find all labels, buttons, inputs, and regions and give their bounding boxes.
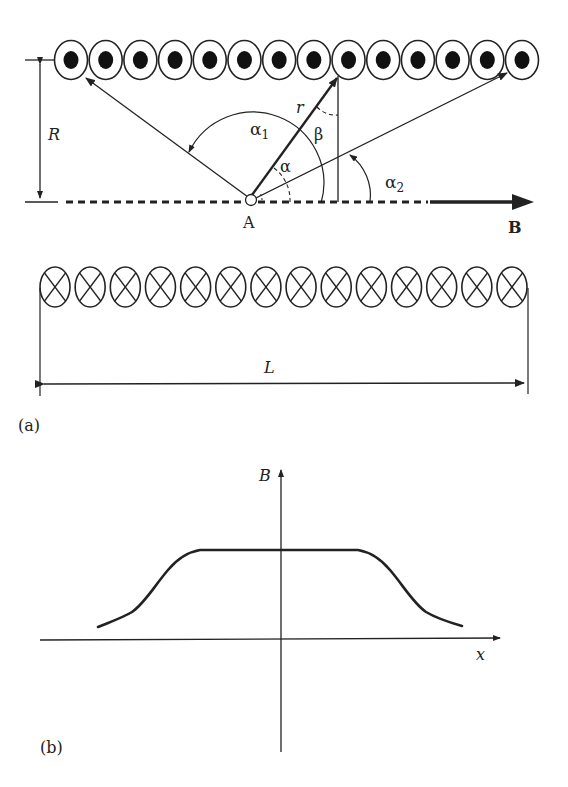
- dot-conductor: [297, 41, 330, 80]
- dot-conductor: [332, 41, 365, 80]
- dot-conductor: [506, 41, 539, 80]
- label-alpha1: α1: [250, 119, 269, 142]
- cross-conductor: [181, 267, 211, 307]
- label-L: L: [263, 358, 275, 377]
- dot-conductor: [89, 41, 122, 80]
- panel-a-label: (a): [18, 416, 40, 435]
- cross-conductor: [145, 267, 175, 307]
- x-axis-label: x: [476, 645, 485, 664]
- y-axis-label: B: [258, 466, 271, 485]
- cross-conductor: [75, 267, 105, 307]
- cross-conductor: [286, 267, 316, 307]
- dot-conductor: [55, 41, 88, 80]
- vector-to-right-end: [254, 73, 507, 199]
- label-B-field: B: [508, 218, 522, 237]
- cross-conductor: [392, 267, 422, 307]
- label-beta: β: [314, 125, 323, 144]
- vector-to-left-end: [86, 78, 248, 197]
- dot-conductor: [263, 41, 296, 80]
- label-r: r: [296, 98, 305, 117]
- panel-b: B x (b): [40, 466, 500, 757]
- point-A: [246, 195, 257, 206]
- cross-conductor: [427, 267, 457, 307]
- cross-conductor: [321, 267, 351, 307]
- dot-conductor: [436, 41, 469, 80]
- field-profile-curve: [98, 550, 462, 627]
- cross-conductor: [251, 267, 281, 307]
- top-conductor-row: [55, 41, 539, 80]
- cross-conductor: [497, 267, 527, 307]
- panel-b-label: (b): [40, 738, 63, 757]
- cross-conductor: [110, 267, 140, 307]
- alpha2-arc: [350, 155, 370, 202]
- panel-a: R B α1 α β r α2 A L (a): [18, 41, 539, 436]
- dot-conductor: [471, 41, 504, 80]
- x-axis: [40, 638, 500, 640]
- label-alpha2: α2: [385, 172, 404, 195]
- dot-conductor: [228, 41, 261, 80]
- dot-conductor: [193, 41, 226, 80]
- cross-conductor: [40, 267, 70, 307]
- b-field-arrow-head: [512, 194, 534, 210]
- cross-conductor: [216, 267, 246, 307]
- solenoid-figure: R B α1 α β r α2 A L (a): [0, 0, 568, 787]
- dot-conductor: [367, 41, 400, 80]
- cross-conductor: [462, 267, 492, 307]
- label-A: A: [242, 213, 255, 232]
- l-dimension-arrow: [44, 383, 524, 384]
- label-R: R: [47, 125, 60, 144]
- beta-arc: [317, 107, 338, 115]
- cross-conductor: [356, 267, 386, 307]
- label-alpha: α: [280, 157, 291, 176]
- dot-conductor: [159, 41, 192, 80]
- dot-conductor: [124, 41, 157, 80]
- dot-conductor: [401, 41, 434, 80]
- bottom-conductor-row: [40, 267, 527, 307]
